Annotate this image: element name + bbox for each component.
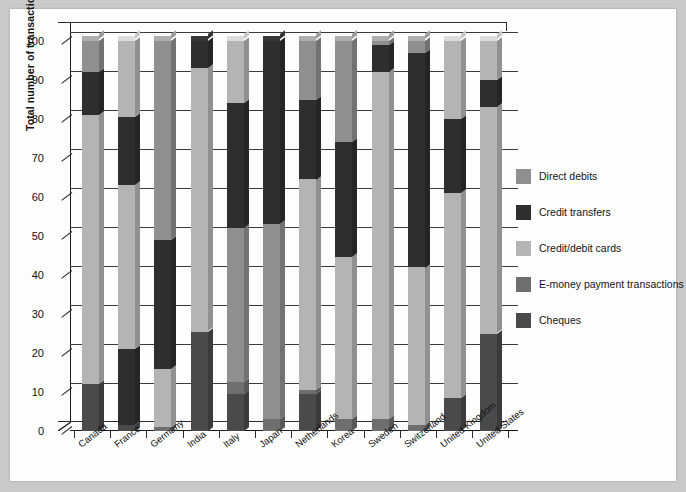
bar-stack[interactable] xyxy=(227,41,244,431)
bar-top-face xyxy=(372,36,389,41)
plot-area: Total number of transactions (%) 0102030… xyxy=(58,31,518,431)
bar-top-face xyxy=(480,36,497,41)
bar-segment[interactable] xyxy=(227,228,244,382)
bar-segment[interactable] xyxy=(372,41,389,45)
bar-segment[interactable] xyxy=(82,41,99,72)
bar-segment[interactable] xyxy=(82,72,99,115)
bar-stack[interactable] xyxy=(154,41,171,431)
bar-segment[interactable] xyxy=(191,68,208,331)
bar-stack[interactable] xyxy=(118,41,135,431)
bar-segment[interactable] xyxy=(191,332,208,431)
y-tick-label: 10 xyxy=(32,386,44,398)
bar-segment[interactable] xyxy=(263,41,280,224)
chart-legend: Direct debitsCredit transfersCredit/debi… xyxy=(516,169,676,349)
bar-segment[interactable] xyxy=(444,41,461,119)
bar-stack[interactable] xyxy=(191,41,208,431)
bar-top-face xyxy=(118,36,135,41)
x-axis-label: India xyxy=(185,428,208,449)
bar-stack[interactable] xyxy=(480,41,497,431)
bar-segment[interactable] xyxy=(82,115,99,384)
bar-segment[interactable] xyxy=(480,41,497,80)
legend-item[interactable]: Direct debits xyxy=(516,169,676,205)
bar-segment[interactable] xyxy=(227,103,244,228)
bar-segment[interactable] xyxy=(480,80,497,107)
bar-segment-side xyxy=(244,100,249,228)
bar-segment-side xyxy=(99,111,104,384)
y-tick-label: 70 xyxy=(32,152,44,164)
legend-swatch xyxy=(516,205,531,220)
bar-segment[interactable] xyxy=(118,349,135,425)
bar-front-face xyxy=(299,41,316,431)
bar-segment-side xyxy=(171,37,176,240)
bar-segment-side xyxy=(389,41,394,72)
y-tick-label: 80 xyxy=(32,113,44,125)
bar-segment[interactable] xyxy=(191,41,208,68)
bar-stack[interactable] xyxy=(335,41,352,431)
bar-segment[interactable] xyxy=(408,53,425,268)
legend-label: E-money payment transactions xyxy=(539,278,684,290)
x-tick-mark xyxy=(291,431,292,438)
bar-segment[interactable] xyxy=(335,41,352,142)
bar-segment[interactable] xyxy=(372,72,389,419)
bar-segment-side xyxy=(461,115,466,193)
bar-segment-side xyxy=(389,69,394,420)
x-tick-mark xyxy=(110,431,111,438)
bar-segment[interactable] xyxy=(299,179,316,390)
legend-item[interactable]: Credit transfers xyxy=(516,205,676,241)
x-tick-mark xyxy=(146,431,147,438)
bar-segment[interactable] xyxy=(299,100,316,180)
bar-segment[interactable] xyxy=(118,185,135,349)
bar-top-face xyxy=(263,36,280,41)
bar-stack[interactable] xyxy=(372,41,389,431)
bar-front-face xyxy=(444,41,461,431)
bar-segment[interactable] xyxy=(299,390,316,394)
bar-segment[interactable] xyxy=(408,267,425,425)
bar-segment[interactable] xyxy=(335,142,352,257)
bar-top-face xyxy=(227,36,244,41)
bar-segment[interactable] xyxy=(263,224,280,419)
bar-front-face xyxy=(118,41,135,431)
bar-stack[interactable] xyxy=(299,41,316,431)
chart-page: Total number of transactions (%) 0102030… xyxy=(10,9,676,481)
bar-segment-side xyxy=(280,37,285,224)
bar-segment[interactable] xyxy=(444,193,461,398)
bar-segment[interactable] xyxy=(227,394,244,431)
legend-label: Credit transfers xyxy=(539,206,611,218)
bar-segment[interactable] xyxy=(227,382,244,394)
legend-swatch xyxy=(516,313,531,328)
bar-segment[interactable] xyxy=(335,257,352,419)
legend-item[interactable]: Cheques xyxy=(516,313,676,349)
bar-top-face xyxy=(408,36,425,41)
bar-stack[interactable] xyxy=(82,41,99,431)
bar-top-face xyxy=(191,36,208,41)
bar-stack[interactable] xyxy=(263,41,280,431)
bar-segment[interactable] xyxy=(299,41,316,100)
bar-segment-side xyxy=(244,390,249,431)
bar-segment[interactable] xyxy=(444,119,461,193)
x-tick-mark xyxy=(327,431,328,438)
bar-segment[interactable] xyxy=(480,107,497,333)
bar-segment-side xyxy=(135,182,140,349)
bar-stack[interactable] xyxy=(408,41,425,431)
bar-segment[interactable] xyxy=(154,369,171,428)
bar-segment[interactable] xyxy=(372,45,389,72)
bar-segment[interactable] xyxy=(118,117,135,185)
bar-segment[interactable] xyxy=(154,41,171,240)
legend-swatch xyxy=(516,277,531,292)
bar-stack[interactable] xyxy=(444,41,461,431)
bar-segment[interactable] xyxy=(118,41,135,117)
x-tick-mark xyxy=(74,431,75,438)
bar-front-face xyxy=(82,41,99,431)
legend-item[interactable]: Credit/debit cards xyxy=(516,241,676,277)
bar-segment-side xyxy=(316,176,321,390)
bar-segment-side xyxy=(352,37,357,142)
bar-segment[interactable] xyxy=(227,41,244,103)
bar-segment[interactable] xyxy=(408,41,425,53)
bar-segment-side xyxy=(135,37,140,117)
plot-top-frame-right xyxy=(506,22,507,31)
bar-segment[interactable] xyxy=(154,240,171,369)
bar-segment-side xyxy=(497,104,502,334)
bar-segment-side xyxy=(425,264,430,426)
legend-item[interactable]: E-money payment transactions xyxy=(516,277,676,313)
y-axis-title: Total number of transactions (%) xyxy=(24,0,36,131)
